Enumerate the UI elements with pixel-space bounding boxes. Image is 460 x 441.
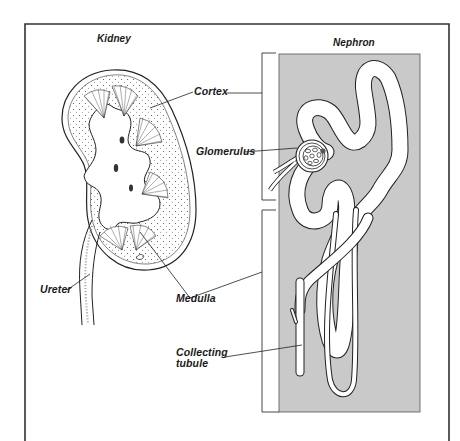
kidney-drawing [62,70,196,325]
region-brackets [262,53,279,412]
cortex-label: Cortex [194,86,228,97]
medulla-label: Medulla [176,293,216,304]
collecting-tubule-label-line2: tubule [176,358,208,369]
diagram-artwork [0,0,460,441]
ureter-label: Ureter [40,284,72,295]
nephron-title: Nephron [333,37,375,48]
kidney-title: Kidney [97,33,131,44]
glomerulus-label: Glomerulus [196,146,255,157]
kidney-nephron-diagram: Kidney Nephron Cortex Glomerulus Ureter … [0,0,460,441]
